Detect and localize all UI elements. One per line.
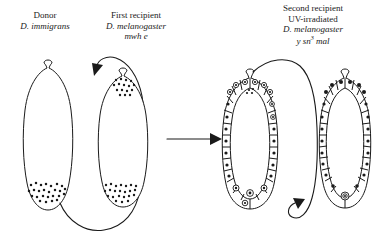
diagram-svg [0,0,376,239]
transplant-arrow-first-to-second-recipient [167,133,222,145]
embryo-cellular-blastoderm [222,69,278,209]
embryo-donor [23,60,72,210]
figure-canvas: Donor D. immigrans First recipient D. me… [0,0,376,239]
embryo-uv-irradiated [319,69,371,208]
